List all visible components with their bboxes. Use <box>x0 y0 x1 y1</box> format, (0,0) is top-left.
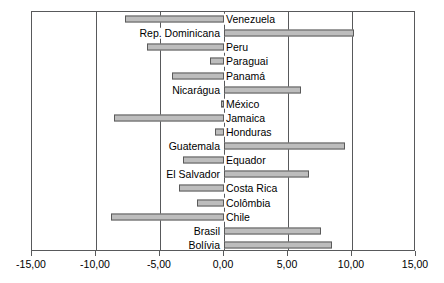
bar-row: Brasil <box>32 224 414 238</box>
plot-area: VenezuelaRep. DominicanaPeruParaguaiPana… <box>31 11 415 251</box>
x-tickmark <box>159 251 160 256</box>
bar <box>210 58 224 65</box>
category-label: Rep. Dominicana <box>137 28 222 39</box>
category-label: Panamá <box>224 70 267 81</box>
category-label: Honduras <box>224 127 274 138</box>
bar <box>172 72 224 79</box>
category-label: Equador <box>224 155 268 166</box>
bar-row: Nicarágua <box>32 83 414 97</box>
bar-row: Peru <box>32 40 414 54</box>
x-tick-label: -5,00 <box>147 258 171 271</box>
bar-row: Chile <box>32 210 414 224</box>
category-label: Costa Rica <box>224 183 279 194</box>
category-label: Nicarágua <box>170 84 222 95</box>
bar-row: El Salvador <box>32 167 414 181</box>
bar <box>224 30 354 37</box>
bar <box>224 143 345 150</box>
bar-rows: VenezuelaRep. DominicanaPeruParaguaiPana… <box>32 12 414 250</box>
x-tickmark <box>287 251 288 256</box>
category-label: El Salvador <box>164 169 222 180</box>
category-label: Venezuela <box>224 14 277 25</box>
bar-row: Jamaica <box>32 111 414 125</box>
category-label: Paraguai <box>224 56 270 67</box>
bar-row: Rep. Dominicana <box>32 26 414 40</box>
bar-row: Bolívia <box>32 238 414 252</box>
x-tickmark <box>415 251 416 256</box>
bar-row: México <box>32 97 414 111</box>
bar <box>147 44 224 51</box>
bar <box>183 157 224 164</box>
bar <box>224 241 332 248</box>
category-label: Jamaica <box>224 113 267 124</box>
x-tickmark <box>31 251 32 256</box>
x-tick-label: 15,00 <box>402 258 428 271</box>
x-axis-tickmarks <box>31 251 415 257</box>
bar <box>197 199 224 206</box>
bar-row: Panamá <box>32 68 414 82</box>
x-tick-label: -15,00 <box>16 258 46 271</box>
x-tick-label: 0,00 <box>213 258 233 271</box>
bar-chart: VenezuelaRep. DominicanaPeruParaguaiPana… <box>0 0 444 283</box>
bar <box>215 128 224 135</box>
category-label: Chile <box>224 211 252 222</box>
bar <box>111 213 224 220</box>
bar <box>125 16 224 23</box>
x-tickmark <box>223 251 224 256</box>
category-label: México <box>224 99 261 110</box>
bar <box>179 185 224 192</box>
category-label: Guatemala <box>167 141 222 152</box>
category-label: Peru <box>224 42 250 53</box>
x-tickmark <box>351 251 352 256</box>
bar-row: Venezuela <box>32 12 414 26</box>
category-label: Brasil <box>192 226 222 237</box>
bar-row: Honduras <box>32 125 414 139</box>
x-tick-label: 5,00 <box>277 258 297 271</box>
x-tick-label: 10,00 <box>338 258 364 271</box>
x-tickmark <box>95 251 96 256</box>
bar-row: Equador <box>32 153 414 167</box>
bar-row: Colômbia <box>32 196 414 210</box>
bar <box>224 171 309 178</box>
category-label: Bolívia <box>186 240 222 251</box>
category-label: Colômbia <box>224 197 272 208</box>
bar-row: Paraguai <box>32 54 414 68</box>
bar <box>224 86 301 93</box>
bar <box>224 227 321 234</box>
bar-row: Costa Rica <box>32 181 414 195</box>
bar-row: Guatemala <box>32 139 414 153</box>
x-tick-label: -10,00 <box>80 258 110 271</box>
bar <box>114 114 224 121</box>
x-axis-tick-labels: -15,00-10,00-5,000,005,0010,0015,00 <box>0 258 444 276</box>
